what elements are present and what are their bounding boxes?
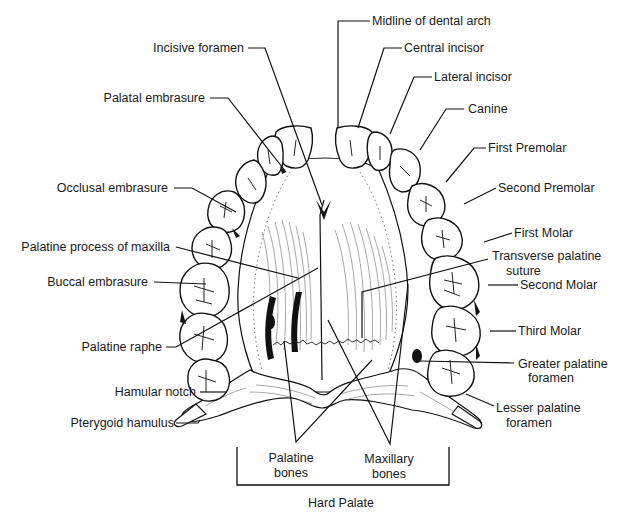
leader-lateral-incisor <box>390 77 432 134</box>
label-first-molar: First Molar <box>514 226 573 240</box>
leader-first-molar <box>484 233 512 242</box>
label-palatine-process-of-maxilla: Palatine process of maxilla <box>21 240 170 254</box>
label-second-molar: Second Molar <box>520 278 597 292</box>
right-first-molar <box>430 256 479 310</box>
label-hard-palate: Hard Palate <box>308 496 374 510</box>
label-palatine-raphe: Palatine raphe <box>81 340 162 354</box>
label-buccal-embrasure: Buccal embrasure <box>47 275 148 289</box>
leader-midline <box>338 21 370 128</box>
label-central-incisor: Central incisor <box>404 41 484 55</box>
label-third-molar: Third Molar <box>518 324 581 338</box>
right-second-molar <box>432 306 481 356</box>
label-palatal-embrasure: Palatal embrasure <box>104 91 205 105</box>
left-first-molar <box>180 263 229 317</box>
label-incisive-foramen: Incisive foramen <box>153 41 244 55</box>
leader-first-premolar <box>446 148 486 182</box>
label-second-premolar: Second Premolar <box>498 181 595 195</box>
label-greater-palatine-foramen-1: Greater palatine <box>518 357 608 371</box>
label-lesser-palatine-foramen-1: Lesser palatine <box>496 401 581 415</box>
hard-palate-diagram: Midline of dental arch Incisive foramen … <box>0 0 624 519</box>
label-greater-palatine-foramen-2: foramen <box>528 371 574 385</box>
label-canine: Canine <box>468 102 508 116</box>
right-second-premolar <box>422 218 463 260</box>
label-hamular-notch: Hamular notch <box>115 385 196 399</box>
left-second-molar <box>180 313 228 363</box>
label-midline-of-dental-arch: Midline of dental arch <box>372 14 491 28</box>
label-palatine-bones-2: bones <box>274 466 308 480</box>
label-transverse-palatine-suture-2: suture <box>506 264 541 278</box>
left-greater-palatine-foramen-shape <box>267 315 275 329</box>
label-transverse-palatine-suture-1: Transverse palatine <box>492 249 601 263</box>
label-palatine-bones-1: Palatine <box>268 451 313 465</box>
label-pterygoid-hamulus: Pterygoid hamulus <box>70 416 174 430</box>
label-occlusal-embrasure: Occlusal embrasure <box>57 181 168 195</box>
label-lateral-incisor: Lateral incisor <box>434 70 512 84</box>
left-first-premolar <box>208 191 245 232</box>
leader-second-premolar <box>464 188 496 204</box>
label-maxillary-bones-2: bones <box>372 467 406 481</box>
label-lesser-palatine-foramen-2: foramen <box>506 416 552 430</box>
label-maxillary-bones-1: Maxillary <box>364 452 414 466</box>
label-first-premolar: First Premolar <box>488 141 566 155</box>
leader-lesser-palatine-foramen <box>466 394 494 406</box>
leader-canine <box>420 109 464 150</box>
leader-central-incisor <box>358 48 402 128</box>
